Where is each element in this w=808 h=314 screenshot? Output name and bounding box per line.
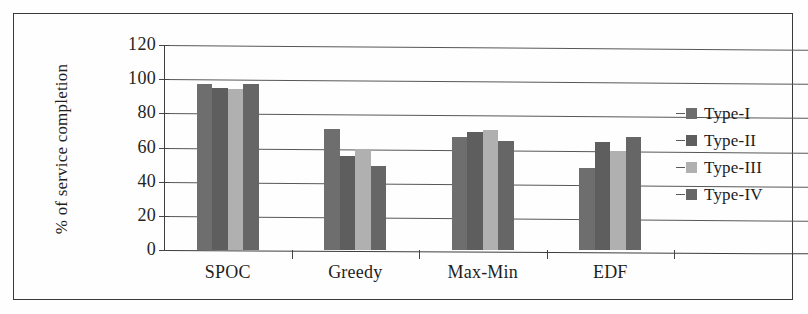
legend-label-type-i: Type-I bbox=[704, 104, 750, 124]
bar-edf-type-i bbox=[579, 168, 595, 250]
x-tick-mark-0 bbox=[292, 250, 293, 259]
bar-max-min-type-i bbox=[452, 137, 468, 250]
x-axis-label-edf: EDF bbox=[550, 262, 670, 283]
legend-leader-line bbox=[676, 194, 685, 195]
y-axis-tick-labels: 120100806040200 bbox=[110, 14, 156, 314]
legend-leader-line bbox=[676, 140, 685, 141]
x-axis-label-spoc: SPOC bbox=[168, 262, 288, 283]
legend-leader-line bbox=[676, 113, 685, 114]
bar-greedy-type-i bbox=[324, 129, 340, 250]
legend-swatch-type-iii bbox=[686, 162, 697, 173]
x-axis-label-greedy: Greedy bbox=[295, 262, 415, 283]
x-axis-label-max-min: Max-Min bbox=[423, 262, 543, 283]
y-tick-label-80: 80 bbox=[110, 102, 156, 123]
y-axis-title: % of service completion bbox=[32, 0, 92, 54]
bar-spoc-type-iii bbox=[228, 89, 244, 250]
bar-edf-type-ii bbox=[595, 142, 611, 250]
bar-max-min-type-iii bbox=[483, 130, 499, 250]
x-tick-mark-3 bbox=[674, 250, 675, 259]
y-tick-mark-20 bbox=[159, 216, 169, 217]
y-tick-mark-120 bbox=[159, 45, 169, 46]
legend-label-type-iii: Type-III bbox=[704, 158, 762, 178]
bar-max-min-type-iv bbox=[498, 141, 514, 250]
legend-item-type-ii[interactable]: Type-II bbox=[686, 127, 798, 154]
x-tick-mark-2 bbox=[547, 250, 548, 259]
bar-edf-type-iii bbox=[610, 151, 626, 250]
gridline-120 bbox=[164, 45, 808, 51]
chart-legend: Type-IType-IIType-IIIType-IV bbox=[686, 100, 798, 208]
gridline-0 bbox=[164, 250, 808, 254]
bar-greedy-type-ii bbox=[340, 156, 356, 250]
y-tick-mark-80 bbox=[159, 113, 169, 114]
bar-greedy-type-iii bbox=[355, 149, 371, 250]
y-tick-label-60: 60 bbox=[110, 137, 156, 158]
legend-swatch-type-ii bbox=[686, 135, 697, 146]
y-tick-mark-100 bbox=[159, 79, 169, 80]
gridline-100 bbox=[164, 79, 808, 85]
legend-item-type-iii[interactable]: Type-III bbox=[686, 154, 798, 181]
bar-edf-type-iv bbox=[626, 137, 642, 250]
y-tick-mark-60 bbox=[159, 148, 169, 149]
bar-spoc-type-ii bbox=[212, 88, 228, 250]
bar-greedy-type-iv bbox=[371, 166, 387, 250]
y-tick-label-120: 120 bbox=[110, 34, 156, 55]
y-tick-label-20: 20 bbox=[110, 205, 156, 226]
y-axis-title-text: % of service completion bbox=[32, 54, 92, 244]
legend-item-type-i[interactable]: Type-I bbox=[686, 100, 798, 127]
legend-swatch-type-iv bbox=[686, 189, 697, 200]
y-tick-mark-40 bbox=[159, 182, 169, 183]
y-tick-mark-0 bbox=[159, 250, 169, 251]
legend-leader-line bbox=[676, 167, 685, 168]
legend-label-type-ii: Type-II bbox=[704, 131, 756, 151]
plot-area bbox=[164, 45, 674, 250]
chart-frame: % of service completion 120100806040200 … bbox=[13, 13, 793, 300]
y-tick-label-0: 0 bbox=[110, 239, 156, 260]
x-tick-mark-1 bbox=[419, 250, 420, 259]
bar-max-min-type-ii bbox=[467, 132, 483, 250]
y-tick-label-100: 100 bbox=[110, 68, 156, 89]
legend-label-type-iv: Type-IV bbox=[704, 185, 763, 205]
bar-spoc-type-i bbox=[197, 84, 213, 250]
legend-item-type-iv[interactable]: Type-IV bbox=[686, 181, 798, 208]
y-tick-label-40: 40 bbox=[110, 171, 156, 192]
bar-spoc-type-iv bbox=[243, 84, 259, 250]
legend-swatch-type-i bbox=[686, 108, 697, 119]
